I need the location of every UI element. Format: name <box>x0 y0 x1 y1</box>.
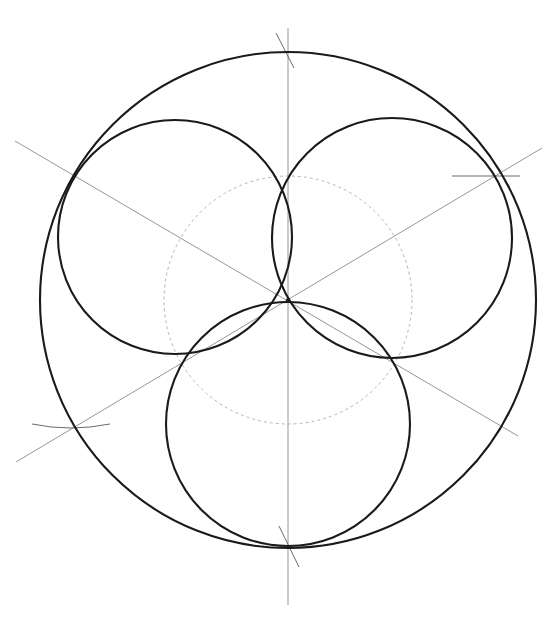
inner-circle-top-left <box>58 120 292 354</box>
top-arc-tick <box>276 33 294 68</box>
geometric-drawing <box>0 0 560 629</box>
tick-marks <box>32 33 520 567</box>
center-point <box>286 298 290 302</box>
left-arc-tick <box>32 424 110 428</box>
construction-lines <box>15 28 542 605</box>
diagonal-descending-line <box>15 141 518 436</box>
